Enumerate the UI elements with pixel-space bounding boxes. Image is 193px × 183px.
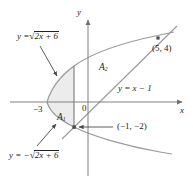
upper-curve-label-prefix: y =	[17, 31, 29, 41]
point-marker-5-4	[156, 36, 159, 39]
x-axis-label: x	[180, 106, 184, 115]
upper-curve-radicand: 2x + 6	[34, 31, 59, 41]
area-label-a1: A1	[57, 113, 66, 123]
area-a1-subscript: 1	[63, 116, 66, 122]
upper-curve-radical: √2x + 6	[29, 31, 59, 41]
area-label-a2: A2	[99, 63, 108, 73]
point-marker-minus1-minus2	[72, 125, 75, 128]
lower-curve-label-prefix: y = −	[9, 150, 30, 160]
point-label-5-4: (5, 4)	[152, 44, 172, 53]
lower-curve-radicand: 2x + 6	[34, 150, 59, 160]
radical-sign-icon: √	[30, 150, 35, 160]
pointer-upper-curve-label	[40, 46, 57, 76]
x-tick-label-minus3: −3	[33, 105, 43, 114]
lower-curve-radical: √2x + 6	[30, 150, 60, 160]
point-label-minus1-minus2: (−1, −2)	[117, 122, 147, 131]
lower-curve-label: y = −√2x + 6	[9, 150, 59, 160]
pointer-lower-curve-label	[37, 124, 56, 146]
area-a2-subscript: 2	[105, 66, 108, 72]
upper-curve-label: y =√2x + 6	[17, 31, 59, 41]
line-equation-label: y = x − 1	[118, 84, 152, 93]
y-axis-label: y	[77, 8, 81, 17]
origin-label: 0	[82, 104, 87, 113]
radical-sign-icon: √	[29, 31, 34, 41]
